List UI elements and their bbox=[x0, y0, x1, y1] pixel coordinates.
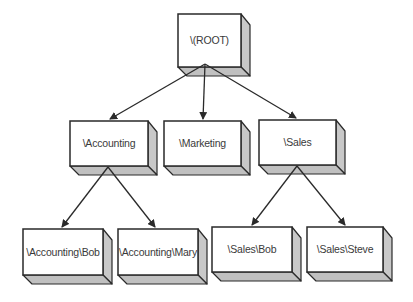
box-bottom-face bbox=[178, 67, 250, 76]
box-bottom-face bbox=[23, 275, 112, 284]
node-label: \Accounting\Bob bbox=[26, 246, 100, 258]
arrow-accounting-to-accounting-mary bbox=[108, 167, 155, 227]
node-label: \Sales bbox=[284, 136, 312, 148]
node-label: \(ROOT) bbox=[190, 34, 229, 46]
node-label: \Sales\Steve bbox=[317, 243, 374, 255]
box-bottom-face bbox=[164, 166, 250, 175]
box-side-face bbox=[241, 14, 250, 76]
arrow-accounting-to-accounting-bob bbox=[62, 167, 108, 227]
node-label: \Accounting\Mary bbox=[119, 246, 198, 258]
node-label: \Accounting bbox=[83, 137, 136, 149]
box-bottom-face bbox=[118, 275, 207, 284]
box-bottom-face bbox=[212, 272, 301, 281]
hierarchy-diagram: \(ROOT)\Accounting\Marketing\Sales\Accou… bbox=[0, 0, 413, 302]
node-label: \Sales\Bob bbox=[228, 243, 277, 255]
arrow-sales-to-sales-steve bbox=[297, 166, 345, 225]
box-bottom-face bbox=[307, 272, 392, 281]
arrow-root-to-accounting bbox=[110, 64, 205, 119]
arrow-sales-to-sales-bob bbox=[252, 166, 297, 225]
node-label: \Marketing bbox=[179, 137, 226, 149]
